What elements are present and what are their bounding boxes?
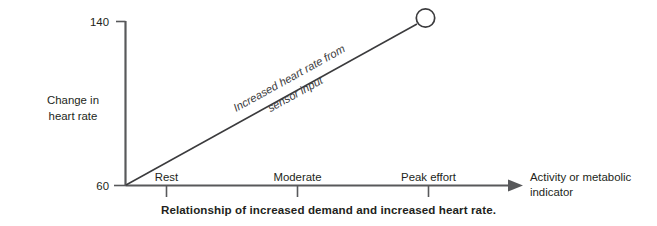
y-tick-label-60: 60 [96,180,109,192]
figure-container: 140 60 Change in heart rate Rest Moderat… [0,0,657,226]
x-tick-label-moderate: Moderate [273,171,321,183]
line-chart: 140 60 Change in heart rate Rest Moderat… [0,0,657,226]
data-point-marker-peak [416,9,434,27]
x-tick-label-rest: Rest [155,171,179,183]
x-axis-arrow-icon [508,180,523,192]
x-tick-label-peak-effort: Peak effort [401,171,457,183]
y-axis-title-line1: Change in [47,94,99,106]
y-axis-title-line2: heart rate [49,110,98,122]
series-annotation-group: Increased heart rate from sensor input [231,42,355,128]
y-tick-label-140: 140 [90,16,109,28]
x-axis-title-line2: indicator [530,186,573,198]
figure-caption: Relationship of increased demand and inc… [0,203,657,216]
x-axis-title-line1: Activity or metabolic [530,171,632,183]
